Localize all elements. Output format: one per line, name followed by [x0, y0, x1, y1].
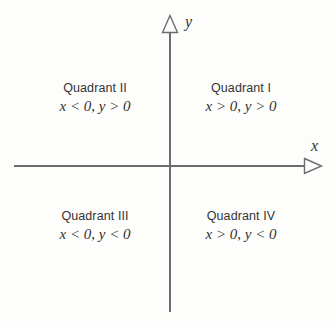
quadrant-3-separator: , [91, 226, 99, 242]
quadrant-1-separator: , [237, 98, 245, 114]
quadrant-4-name: Quadrant IV [176, 209, 306, 224]
quadrant-2-x-condition: x < 0 [59, 98, 91, 114]
coordinate-plane-diagram: x y Quadrant II x < 0, y > 0 Quadrant I … [0, 0, 336, 322]
quadrant-3-name: Quadrant III [30, 209, 160, 224]
quadrant-4-separator: , [237, 226, 245, 242]
quadrant-1-y-condition: y > 0 [245, 98, 277, 114]
quadrant-1-name: Quadrant I [176, 81, 306, 96]
quadrant-3-group: Quadrant III x < 0, y < 0 [30, 209, 160, 243]
quadrant-3-y-condition: y < 0 [99, 226, 131, 242]
quadrant-3-condition: x < 0, y < 0 [30, 225, 160, 243]
quadrant-2-name: Quadrant II [30, 81, 160, 96]
x-axis-line [14, 165, 307, 167]
quadrant-4-condition: x > 0, y < 0 [176, 225, 306, 243]
y-axis-label: y [185, 14, 192, 30]
quadrant-4-y-condition: y < 0 [245, 226, 277, 242]
quadrant-2-condition: x < 0, y > 0 [30, 97, 160, 115]
quadrant-2-separator: , [91, 98, 99, 114]
quadrant-1-x-condition: x > 0 [205, 98, 237, 114]
quadrant-4-x-condition: x > 0 [205, 226, 237, 242]
quadrant-3-x-condition: x < 0 [59, 226, 91, 242]
quadrant-2-group: Quadrant II x < 0, y > 0 [30, 81, 160, 115]
x-axis-label: x [311, 138, 318, 154]
y-axis-line [169, 30, 171, 312]
quadrant-2-y-condition: y > 0 [99, 98, 131, 114]
x-axis-arrowhead-icon [303, 156, 323, 176]
quadrant-4-group: Quadrant IV x > 0, y < 0 [176, 209, 306, 243]
quadrant-1-condition: x > 0, y > 0 [176, 97, 306, 115]
y-axis-arrowhead-icon [160, 14, 180, 34]
quadrant-1-group: Quadrant I x > 0, y > 0 [176, 81, 306, 115]
